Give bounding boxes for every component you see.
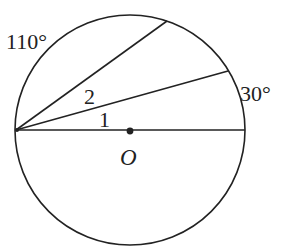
center-label-o: O: [120, 145, 137, 170]
circle-angle-diagram: 110° 30° 2 1 O: [0, 0, 281, 246]
arc-label-30: 30°: [240, 81, 271, 106]
angle-label-2: 2: [84, 84, 95, 109]
center-point: [127, 128, 134, 135]
angle-label-1: 1: [99, 107, 110, 132]
vertex-point: [15, 128, 19, 132]
lower-chord: [16, 71, 228, 130]
arc-label-110: 110°: [6, 29, 47, 54]
